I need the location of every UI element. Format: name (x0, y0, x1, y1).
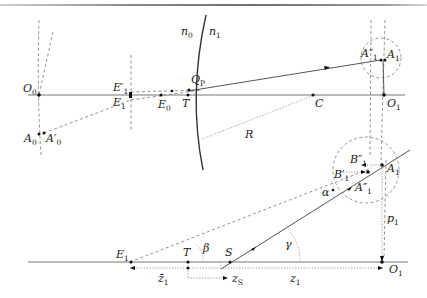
point-E1 (129, 92, 132, 98)
refracting-surface (196, 15, 206, 170)
zs-arrowhead (223, 276, 228, 280)
label-alpha: α (322, 186, 330, 199)
label-A1pp-b: A″1 (354, 181, 372, 196)
bottom-panel: E1 T S β γ α B′1 B″1 A″1 A1 p1 O1 z̄1 zS… (28, 137, 410, 287)
top-panel: O0 A0 A′0 E′1 E1 E0 QP T R C n0 n1 A″1 A… (23, 15, 405, 170)
label-E0: E0 (157, 98, 171, 113)
label-T: T (182, 97, 191, 110)
label-A0p: A′0 (45, 132, 61, 147)
label-gamma: γ (285, 238, 292, 251)
refracted-ray (188, 60, 381, 91)
z1-arrowhead (378, 266, 383, 270)
label-E1p: E′1 (112, 81, 128, 96)
label-zS: zS (231, 272, 243, 287)
label-n1: n1 (209, 25, 221, 40)
point-O1 (382, 93, 386, 97)
label-A1: A1 (386, 48, 400, 63)
label-A1pp: A″1 (360, 47, 378, 62)
label-A1-b: A1 (386, 162, 400, 177)
point-S (229, 261, 232, 264)
b1p-arrowhead (361, 170, 366, 174)
point-mid (171, 90, 174, 93)
label-E1-b: E1 (115, 248, 129, 263)
label-p1: p1 (387, 212, 399, 227)
label-C: C (315, 97, 324, 110)
label-E1: E1 (112, 96, 126, 111)
point-E0 (160, 94, 163, 97)
point-O0 (37, 93, 41, 97)
point-Qp (188, 89, 191, 92)
chief-ray-arrow (251, 247, 256, 251)
zbar1-arrowhead (130, 266, 135, 270)
point-A1pp-b (366, 170, 370, 174)
point-A1pp (380, 59, 383, 62)
label-zbar1: z̄1 (157, 272, 169, 287)
optics-diagram: O0 A0 A′0 E′1 E1 E0 QP T R C n0 n1 A″1 A… (0, 0, 427, 298)
label-O1: O1 (387, 97, 401, 112)
label-O1-b: O1 (389, 263, 403, 278)
label-R: R (244, 128, 253, 141)
label-Qp: QP (191, 73, 205, 88)
label-beta: β (202, 242, 209, 255)
point-E1-b (130, 261, 133, 264)
label-S: S (225, 246, 233, 259)
label-B1p: B′1 (333, 168, 349, 183)
label-O0: O0 (23, 82, 37, 97)
point-T-b (187, 261, 190, 264)
radius-line (202, 96, 312, 139)
label-z1: z1 (289, 272, 301, 287)
point-A1-b (380, 163, 384, 167)
p1-dashed (384, 160, 386, 258)
point-alpha (332, 189, 335, 192)
point-A0 (38, 133, 41, 136)
label-B1pp: B″1 (349, 153, 367, 168)
point-O1-b (380, 260, 384, 264)
point-T-dim (187, 267, 190, 270)
label-n0: n0 (181, 25, 193, 40)
label-A0: A0 (23, 132, 37, 147)
object-plane-tilt (39, 32, 53, 95)
image-ray-2 (381, 20, 385, 160)
label-T-b: T (183, 246, 192, 259)
